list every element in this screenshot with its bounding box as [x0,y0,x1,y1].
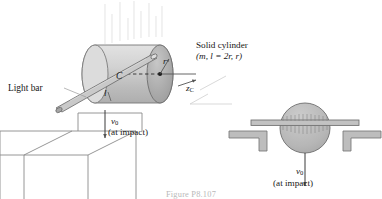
figure-container: Light bar Solid cylinder (m, l = 2r, r) … [0,0,382,199]
z-axis-subscript: C [190,86,194,93]
centroid-label: C [116,71,122,82]
cylinder-end-circle [280,103,330,153]
support-right [343,131,381,151]
support-left [229,131,267,151]
v0-subscript-left: 0 [115,119,118,126]
radius-label: r [163,56,167,66]
v0-label-left: v0 [111,116,118,127]
v0-label-right: v0 [296,166,303,177]
cylinder-parameters-label: (m, l = 2r, r) [196,51,242,61]
at-impact-label-left: (at impact) [108,127,148,137]
perspective-guides [190,76,232,104]
light-bar-label: Light bar [8,83,43,94]
cylinder-3d-group [82,45,196,103]
endview-group [229,103,381,186]
length-label: l [104,88,107,98]
figure-drawing [0,0,382,199]
motion-lines-group [105,1,162,44]
light-bar-endview [251,120,359,125]
z-axis-label: zC [186,83,194,94]
figure-caption: Figure P8.107 [0,190,382,199]
solid-cylinder-label: Solid cylinder [196,40,248,50]
at-impact-label-right: (at impact) [273,178,313,188]
support-table-left-group [0,113,142,199]
v0-subscript-right: 0 [300,169,303,176]
